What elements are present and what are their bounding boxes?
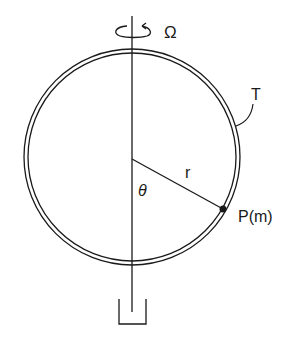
radius-label: r (185, 164, 191, 181)
rotating-ring-diagram: Ω T r θ P(m) (0, 0, 303, 339)
angle-label: θ (138, 182, 147, 199)
rotation-arrow-icon (116, 23, 151, 38)
point-label: P(m) (238, 208, 273, 225)
omega-label: Ω (164, 23, 177, 42)
point-mass (220, 206, 227, 213)
tube-label: T (251, 86, 261, 103)
tube-leader-line (236, 104, 253, 126)
